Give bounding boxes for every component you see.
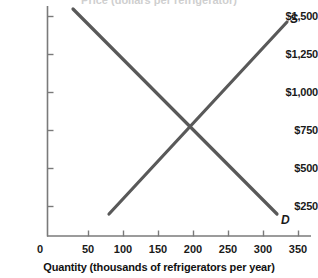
- x-tick-label-250: 250: [219, 244, 237, 255]
- supply-demand-chart: Price (dollars per refrigerator): [0, 0, 318, 278]
- x-tick-label-0: 0: [37, 244, 43, 255]
- y-tick-label-250: $250: [274, 201, 318, 212]
- x-tick-label-50: 50: [82, 244, 94, 255]
- demand-curve-label: D: [281, 214, 290, 226]
- y-tick-label-500: $500: [274, 163, 318, 174]
- x-tick-label-200: 200: [184, 244, 202, 255]
- supply-curve: [109, 22, 287, 214]
- x-tick-label-150: 150: [149, 244, 167, 255]
- supply-curve-label: S: [290, 13, 298, 25]
- demand-curve: [73, 9, 277, 214]
- plot-area: [0, 0, 318, 278]
- x-tick-label-350: 350: [289, 244, 307, 255]
- y-axis-ticks: [48, 17, 54, 207]
- y-tick-label-1000: $1,000: [274, 87, 318, 98]
- x-tick-label-300: 300: [254, 244, 272, 255]
- x-tick-label-100: 100: [114, 244, 132, 255]
- y-tick-label-750: $750: [274, 125, 318, 136]
- y-tick-label-1250: $1,250: [274, 49, 318, 60]
- x-axis-title: Quantity (thousands of refrigerators per…: [0, 261, 318, 273]
